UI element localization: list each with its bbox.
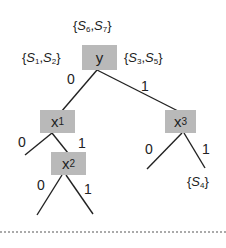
dotted-separator <box>0 231 226 233</box>
edge-x1-leaf0 <box>25 133 52 155</box>
node-y: y <box>82 45 117 70</box>
set-top-b: S <box>94 18 103 33</box>
edge-label-y-0: 0 <box>67 71 75 87</box>
set-right-a-sub: 3 <box>137 57 141 66</box>
edge-label-x1-1: 1 <box>78 135 86 151</box>
node-x2: x2 <box>51 152 86 175</box>
edge-label-x1-0: 0 <box>18 134 26 150</box>
set-right-b-sub: 5 <box>154 57 158 66</box>
edge-label-x2-0: 0 <box>37 177 45 193</box>
set-right-a: S <box>128 50 137 65</box>
node-x1-label: x <box>51 113 59 130</box>
set-leaf-a: S <box>191 174 200 189</box>
node-y-label: y <box>96 49 104 66</box>
set-right-b: S <box>145 50 154 65</box>
node-x1-sub: 1 <box>58 116 64 127</box>
edge-y-x3 <box>97 70 180 112</box>
set-left: {S1,S2} <box>22 50 61 66</box>
edge-label-y-1: 1 <box>141 78 149 94</box>
set-leaf-a-sub: 4 <box>200 181 204 190</box>
set-top-a-sub: 6 <box>86 25 90 34</box>
edge-label-x3-0: 0 <box>145 141 153 157</box>
set-right: {S3,S5} <box>124 50 163 66</box>
edge-label-x3-1: 1 <box>202 141 210 157</box>
edge-x1-x2 <box>52 133 68 153</box>
edge-label-x2-1: 1 <box>84 181 92 197</box>
node-x2-label: x <box>62 155 70 172</box>
node-x3-sub: 3 <box>181 116 187 127</box>
set-left-a: S <box>26 50 35 65</box>
set-top-a: S <box>77 18 86 33</box>
set-left-b: S <box>43 50 52 65</box>
node-x3: x3 <box>165 110 196 133</box>
node-x1: x1 <box>40 110 75 133</box>
set-left-a-sub: 1 <box>35 57 39 66</box>
node-x2-sub: 2 <box>69 158 75 169</box>
decision-tree-diagram: {S6,S7} {S1,S2} {S3,S5} {S4} y x1 x2 x3 … <box>0 0 226 248</box>
set-top: {S6,S7} <box>73 18 112 34</box>
set-left-b-sub: 2 <box>52 57 56 66</box>
set-leaf: {S4} <box>187 174 209 190</box>
node-x3-label: x <box>174 113 182 130</box>
set-top-b-sub: 7 <box>103 25 107 34</box>
